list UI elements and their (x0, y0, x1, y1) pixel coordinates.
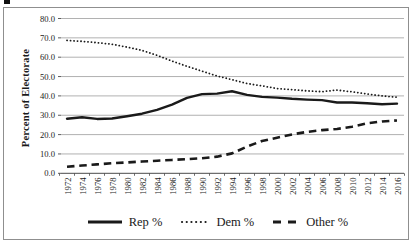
x-tick-label: 2006 (318, 177, 328, 195)
legend-item-other: Other % (272, 215, 348, 230)
x-tick-label: 1994 (228, 177, 238, 195)
dem-dotted-line-icon (180, 219, 210, 225)
y-tick-label: 50.0 (40, 72, 55, 82)
y-tick-label: 80.0 (40, 14, 55, 24)
x-tick-label: 1976 (93, 177, 103, 195)
x-tick-label: 2008 (333, 178, 343, 195)
x-tick-label: 2016 (393, 177, 403, 195)
x-tick-label: 2014 (378, 177, 388, 195)
other-line (67, 120, 397, 166)
y-tick-label: 0.0 (44, 168, 55, 178)
legend-label-other: Other % (306, 215, 348, 230)
x-tick-label: 1980 (123, 178, 133, 195)
x-tick-label: 1992 (213, 178, 223, 195)
x-tick-label: 2012 (363, 178, 373, 195)
chart-figure: Percent of Electorate 0.010.020.030.040.… (0, 0, 414, 244)
line-chart-canvas: 0.010.020.030.040.050.060.070.080.019721… (0, 0, 414, 244)
rep-line (67, 91, 397, 119)
x-tick-label: 1982 (138, 178, 148, 195)
y-tick-label: 20.0 (40, 130, 55, 140)
x-tick-label: 2010 (348, 178, 358, 195)
x-tick-label: 1996 (243, 177, 253, 195)
legend-item-rep: Rep % (87, 215, 163, 230)
y-tick-label: 60.0 (40, 52, 55, 62)
x-tick-label: 2002 (288, 178, 298, 195)
x-tick-label: 1988 (183, 178, 193, 195)
rep-solid-line-icon (87, 219, 123, 225)
x-tick-label: 1990 (198, 178, 208, 195)
x-tick-label: 1986 (168, 177, 178, 195)
legend-item-dem: Dem % (180, 215, 254, 230)
legend-label-rep: Rep % (129, 215, 163, 230)
x-tick-label: 2000 (273, 178, 283, 195)
y-tick-label: 30.0 (40, 110, 55, 120)
legend-label-dem: Dem % (216, 215, 254, 230)
x-tick-label: 1998 (258, 178, 268, 195)
x-tick-label: 1984 (153, 177, 163, 195)
dem-line (67, 40, 397, 97)
x-tick-label: 1974 (78, 177, 88, 195)
other-dashed-line-icon (272, 219, 300, 225)
y-tick-label: 70.0 (40, 33, 55, 43)
x-tick-label: 1972 (63, 178, 73, 195)
chart-legend: Rep % Dem % Other % (30, 209, 405, 235)
x-tick-label: 1978 (108, 178, 118, 195)
y-tick-label: 10.0 (40, 149, 55, 159)
y-tick-label: 40.0 (40, 91, 55, 101)
x-tick-label: 2004 (303, 177, 313, 195)
